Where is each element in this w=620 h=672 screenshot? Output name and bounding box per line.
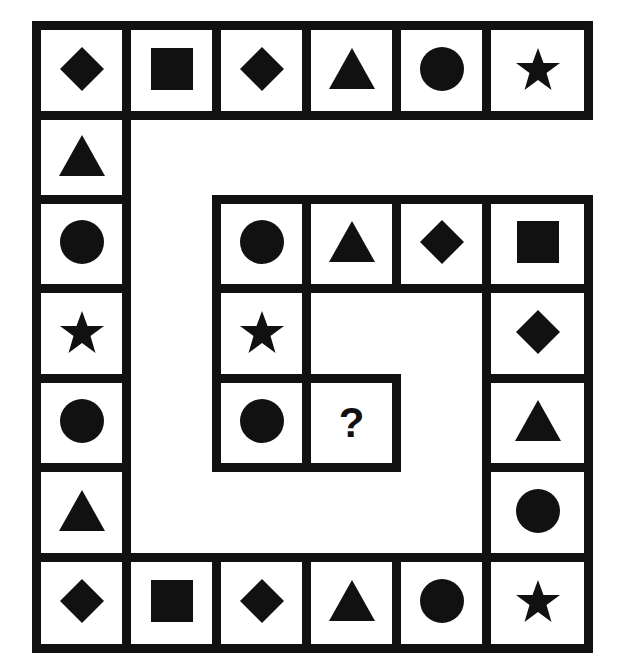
shape-cell (482, 284, 593, 383)
shape-cell (302, 21, 401, 120)
circle-icon (238, 397, 286, 449)
star-icon (238, 308, 286, 360)
shape-cell (212, 21, 311, 120)
circle-icon (418, 45, 466, 97)
shape-cell (482, 374, 593, 472)
triangle-icon (328, 45, 376, 97)
shape-cell (482, 463, 593, 562)
diamond-icon (514, 308, 562, 360)
shape-cell (32, 284, 131, 383)
spiral-puzzle-board: ? (0, 0, 620, 672)
shape-cell (212, 195, 311, 293)
shape-cell (32, 21, 131, 120)
triangle-icon (328, 577, 376, 629)
square-icon (148, 45, 196, 97)
square-icon (514, 218, 562, 270)
diamond-icon (58, 577, 106, 629)
shape-cell (482, 553, 593, 653)
diamond-icon (418, 218, 466, 270)
star-icon (514, 45, 562, 97)
circle-icon (238, 218, 286, 270)
circle-icon (418, 577, 466, 629)
shape-cell (212, 553, 311, 653)
shape-cell (32, 195, 131, 293)
shape-cell (122, 553, 221, 653)
shape-cell (482, 21, 593, 120)
shape-cell (392, 195, 491, 293)
shape-cell (122, 21, 221, 120)
diamond-icon (58, 45, 106, 97)
circle-icon (514, 487, 562, 539)
shape-cell (392, 553, 491, 653)
triangle-icon (328, 218, 376, 270)
answer-cell[interactable]: ? (302, 374, 401, 472)
shape-cell (302, 195, 401, 293)
triangle-icon (58, 132, 106, 184)
diamond-icon (238, 577, 286, 629)
shape-cell (302, 553, 401, 653)
shape-cell (32, 463, 131, 562)
question-mark: ? (339, 402, 365, 444)
triangle-icon (58, 487, 106, 539)
shape-cell (32, 374, 131, 472)
square-icon (148, 577, 196, 629)
triangle-icon (514, 397, 562, 449)
circle-icon (58, 218, 106, 270)
shape-cell (212, 284, 311, 383)
shape-cell (392, 21, 491, 120)
star-icon (514, 577, 562, 629)
star-icon (58, 308, 106, 360)
shape-cell (32, 111, 131, 204)
circle-icon (58, 397, 106, 449)
shape-cell (32, 553, 131, 653)
shape-cell (482, 195, 593, 293)
shape-cell (212, 374, 311, 472)
diamond-icon (238, 45, 286, 97)
